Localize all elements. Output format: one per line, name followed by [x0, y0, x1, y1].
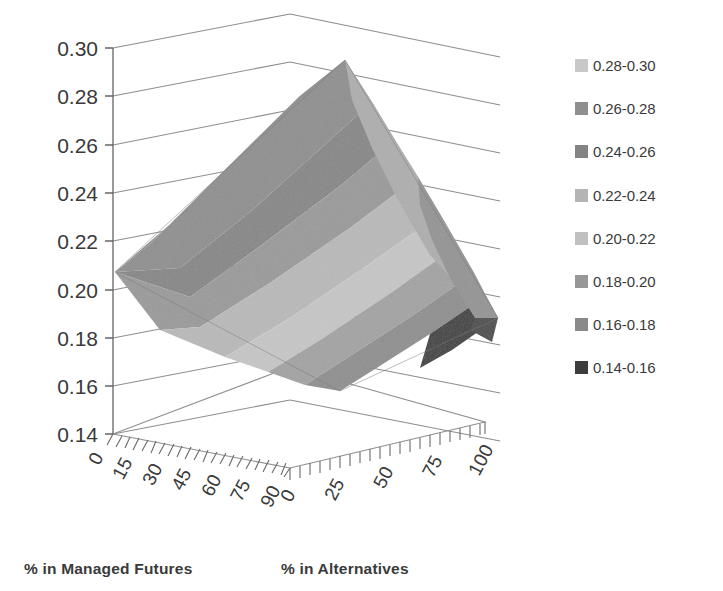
- legend-label: 0.20-0.22: [593, 230, 655, 247]
- z-tick-label: 75: [418, 452, 446, 481]
- legend-label: 0.16-0.18: [593, 316, 655, 333]
- y-tick-label: 0.26: [57, 134, 98, 157]
- legend-swatch-icon: [575, 318, 588, 331]
- y-tick-label: 0.20: [57, 279, 98, 302]
- x-tick-label: 0: [84, 449, 108, 468]
- x-axis-title: % in Managed Futures: [24, 560, 193, 578]
- legend-swatch-icon: [575, 102, 588, 115]
- z-axis-labels: 0 25 50 75 100: [276, 441, 498, 505]
- x-axis-ticks: [107, 434, 290, 477]
- legend-item: 0.26-0.28: [575, 87, 715, 130]
- x-tick-label: 15: [108, 454, 136, 483]
- legend-label: 0.24-0.26: [593, 143, 655, 160]
- y-tick-label: 0.22: [57, 230, 98, 253]
- x-tick-label: 30: [138, 460, 166, 489]
- y-tick-label: 0.14: [57, 423, 98, 446]
- y-tick-label: 0.30: [57, 37, 98, 60]
- z-tick-label: 0: [276, 486, 300, 505]
- legend-swatch-icon: [575, 275, 588, 288]
- legend-item: 0.22-0.24: [575, 174, 715, 217]
- x-tick-label: 75: [226, 476, 254, 505]
- legend-label: 0.18-0.20: [593, 273, 655, 290]
- z-tick-label: 100: [464, 441, 497, 479]
- legend-label: 0.28-0.30: [593, 57, 655, 74]
- y-tick-label: 0.18: [57, 327, 98, 350]
- legend-swatch-icon: [575, 189, 588, 202]
- y-tick-label: 0.16: [57, 375, 98, 398]
- legend-swatch-icon: [575, 59, 588, 72]
- x-tick-label: 45: [167, 465, 195, 494]
- surface-mesh: [115, 60, 498, 398]
- y-tick-label: 0.24: [57, 182, 98, 205]
- x-axis-labels: 0 15 30 45 60 75 90: [84, 449, 285, 511]
- surface-chart: 0.30 0.28 0.26 0.24 0.22 0.20 0.18 0.16 …: [0, 0, 723, 591]
- legend-label: 0.14-0.16: [593, 359, 655, 376]
- legend-swatch-icon: [575, 232, 588, 245]
- legend-swatch-icon: [575, 145, 588, 158]
- legend-item: 0.16-0.18: [575, 303, 715, 346]
- z-axis-title: % in Alternatives: [281, 560, 409, 578]
- x-tick-label: 60: [197, 471, 225, 500]
- legend: 0.28-0.30 0.26-0.28 0.24-0.26 0.22-0.24 …: [575, 44, 715, 390]
- value-axis-ticks: [105, 48, 113, 434]
- z-tick-label: 25: [320, 475, 348, 504]
- surface-corner-lowpoint: [470, 318, 498, 342]
- legend-item: 0.20-0.22: [575, 217, 715, 260]
- legend-item: 0.24-0.26: [575, 130, 715, 173]
- legend-label: 0.22-0.24: [593, 187, 655, 204]
- legend-label: 0.26-0.28: [593, 100, 655, 117]
- legend-item: 0.14-0.16: [575, 346, 715, 389]
- z-tick-label: 50: [369, 463, 397, 492]
- value-axis-labels: 0.30 0.28 0.26 0.24 0.22 0.20 0.18 0.16 …: [57, 37, 98, 446]
- legend-item: 0.18-0.20: [575, 260, 715, 303]
- legend-item: 0.28-0.30: [575, 44, 715, 87]
- y-tick-label: 0.28: [57, 85, 98, 108]
- legend-swatch-icon: [575, 361, 588, 374]
